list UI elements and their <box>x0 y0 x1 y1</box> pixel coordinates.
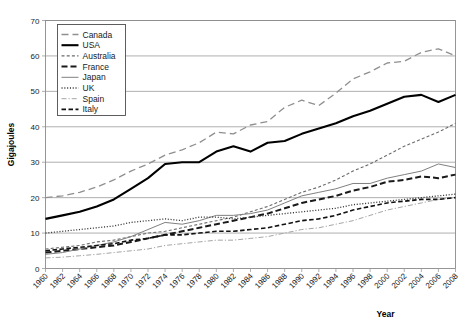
legend-label-australia: Australia <box>83 51 116 61</box>
y-tick-label: 40 <box>31 123 40 132</box>
series-line-spain <box>46 198 456 258</box>
y-tick-label: 70 <box>31 17 40 26</box>
line-chart: 0102030405060701960196219641966196819701… <box>0 0 466 325</box>
x-tick-label: 1960 <box>31 271 50 290</box>
x-tick-label: 2006 <box>424 271 443 290</box>
x-tick-label: 1994 <box>321 271 340 290</box>
legend-label-italy: Italy <box>83 104 99 114</box>
legend-label-france: France <box>83 62 110 72</box>
legend-label-spain: Spain <box>83 94 105 104</box>
y-tick-label: 20 <box>31 194 40 203</box>
x-tick-label: 1984 <box>236 271 255 290</box>
x-tick-label: 1986 <box>253 271 272 290</box>
legend-label-canada: Canada <box>83 30 113 40</box>
y-tick-label: 0 <box>35 265 40 274</box>
x-tick-label: 1982 <box>219 271 238 290</box>
x-axis-title: Year <box>377 309 396 319</box>
x-tick-label: 1996 <box>338 271 357 290</box>
x-tick-label: 2000 <box>373 271 392 290</box>
y-tick-label: 60 <box>31 52 40 61</box>
x-tick-label: 1964 <box>65 271 84 290</box>
y-tick-label: 50 <box>31 87 40 96</box>
x-tick-label: 1966 <box>82 271 101 290</box>
y-axis-title: Gigajoules <box>6 123 16 167</box>
x-tick-label: 1978 <box>185 271 204 290</box>
x-tick-label: 1974 <box>151 271 170 290</box>
series-line-japan <box>46 164 456 254</box>
x-tick-label: 2008 <box>441 271 460 290</box>
x-tick-label: 1962 <box>48 271 67 290</box>
x-tick-label: 1988 <box>270 271 289 290</box>
x-tick-label: 1998 <box>356 271 375 290</box>
legend-label-japan: Japan <box>83 72 106 82</box>
x-tick-label: 1990 <box>287 271 306 290</box>
legend-label-usa: USA <box>83 40 101 50</box>
x-tick-label: 1980 <box>202 271 221 290</box>
x-tick-label: 1968 <box>99 271 118 290</box>
legend-label-uk: UK <box>83 83 95 93</box>
x-tick-label: 1970 <box>116 271 135 290</box>
x-tick-label: 1976 <box>168 271 187 290</box>
x-tick-label: 2004 <box>407 271 426 290</box>
x-tick-label: 1972 <box>133 271 152 290</box>
chart-container: 0102030405060701960196219641966196819701… <box>0 0 466 325</box>
x-tick-label: 2002 <box>390 271 409 290</box>
series-line-italy <box>46 198 456 251</box>
y-tick-label: 30 <box>31 158 40 167</box>
x-tick-label: 1992 <box>304 271 323 290</box>
y-tick-label: 10 <box>31 229 40 238</box>
